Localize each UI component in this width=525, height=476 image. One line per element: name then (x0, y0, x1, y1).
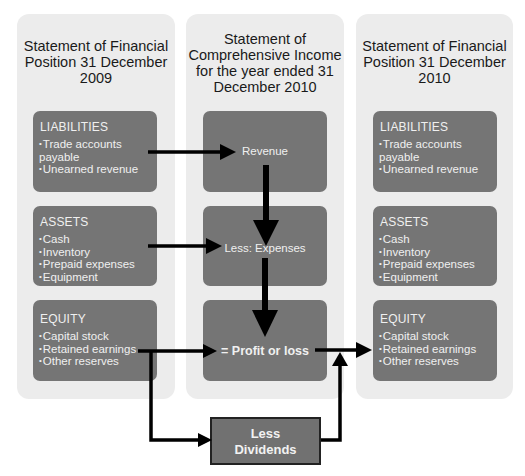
list-item: Trade accounts payable (39, 138, 157, 163)
list-item: Unearned revenue (39, 163, 157, 176)
list-item: Prepaid expenses (379, 258, 475, 271)
box-less-expenses: Less: Expenses (203, 206, 327, 286)
list-item: Prepaid expenses (39, 258, 135, 271)
list-item: Inventory (39, 246, 135, 259)
list-item: Unearned revenue (379, 163, 497, 176)
box-liabilities-2010: LIABILITIES Trade accounts payable Unear… (373, 111, 497, 192)
box-list: Cash Inventory Prepaid expenses Equipmen… (39, 233, 135, 283)
list-item: Other reserves (39, 355, 136, 368)
box-profit-or-loss: = Profit or loss (203, 300, 327, 381)
box-heading: LIABILITIES (40, 120, 108, 134)
box-less-dividends: Less Dividends (210, 417, 321, 465)
list-item: Cash (39, 233, 135, 246)
box-label: Less: Expenses (203, 242, 327, 254)
box-equity-2010: EQUITY Capital stock Retained earnings O… (373, 300, 497, 381)
box-liabilities-2009: LIABILITIES Trade accounts payable Unear… (33, 111, 157, 192)
list-item: Cash (379, 233, 475, 246)
list-item: Equipment (379, 271, 475, 284)
box-list: Trade accounts payable Unearned revenue (379, 138, 497, 176)
list-item: Trade accounts payable (379, 138, 497, 163)
panel-title: Statement of Financial Position 31 Decem… (17, 38, 175, 86)
box-heading: LIABILITIES (380, 120, 448, 134)
list-item: Capital stock (39, 330, 136, 343)
box-list: Cash Inventory Prepaid expenses Equipmen… (379, 233, 475, 283)
box-label: Revenue (203, 145, 327, 157)
panel-title: Statement of Comprehensive Income for th… (186, 31, 344, 95)
box-heading: ASSETS (40, 215, 89, 229)
box-heading: EQUITY (40, 312, 86, 326)
list-item: Inventory (379, 246, 475, 259)
box-revenue: Revenue (203, 111, 327, 192)
list-item: Capital stock (379, 330, 476, 343)
box-assets-2010: ASSETS Cash Inventory Prepaid expenses E… (373, 206, 497, 286)
list-item: Equipment (39, 271, 135, 284)
box-list: Trade accounts payable Unearned revenue (39, 138, 157, 176)
box-heading: ASSETS (380, 215, 429, 229)
box-label: = Profit or loss (203, 344, 327, 358)
list-item: Retained earnings (39, 343, 136, 356)
box-list: Capital stock Retained earnings Other re… (39, 330, 136, 368)
box-assets-2009: ASSETS Cash Inventory Prepaid expenses E… (33, 206, 157, 286)
box-heading: EQUITY (380, 312, 426, 326)
list-item: Other reserves (379, 355, 476, 368)
list-item: Retained earnings (379, 343, 476, 356)
panel-title: Statement of Financial Position 31 Decem… (356, 38, 513, 86)
box-equity-2009: EQUITY Capital stock Retained earnings O… (33, 300, 157, 381)
box-list: Capital stock Retained earnings Other re… (379, 330, 476, 368)
